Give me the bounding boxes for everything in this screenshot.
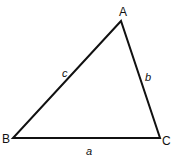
side-label-b: b xyxy=(145,71,151,83)
side-label-c: c xyxy=(62,67,68,79)
triangle-diagram: A B C a b c xyxy=(0,0,176,163)
side-label-a: a xyxy=(86,145,92,157)
vertex-label-b: B xyxy=(2,132,10,146)
vertex-label-c: C xyxy=(162,134,171,148)
vertex-label-a: A xyxy=(119,5,127,19)
triangle-abc xyxy=(13,21,160,138)
